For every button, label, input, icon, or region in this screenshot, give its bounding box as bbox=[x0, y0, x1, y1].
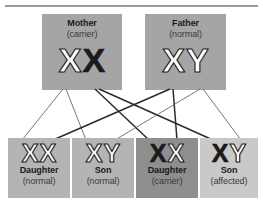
mother-chromosomes: X X bbox=[59, 44, 105, 76]
daughter-normal-chromosome-2: X bbox=[40, 142, 57, 166]
mother-chromosome-2: X bbox=[83, 44, 106, 76]
son-affected-chromosome-2: Y bbox=[230, 142, 247, 166]
mother-title: Mother bbox=[67, 18, 96, 29]
son-affected-chromosome-1: X bbox=[212, 142, 229, 166]
father-chromosome-2: Y bbox=[186, 44, 209, 76]
daughter-carrier-labels: Daughter (carrier) bbox=[148, 165, 187, 187]
mother-subtitle: (carrier) bbox=[67, 29, 98, 40]
child-box-daughter-carrier: X X Daughter (carrier) bbox=[136, 138, 198, 198]
daughter-normal-chromosome-1: X bbox=[22, 142, 39, 166]
son-affected-title: Son bbox=[211, 165, 248, 176]
daughter-carrier-chromosome-2: X bbox=[168, 142, 185, 166]
son-normal-labels: Son (normal) bbox=[87, 165, 120, 187]
daughter-carrier-chromosomes: X X bbox=[150, 142, 184, 166]
son-affected-labels: Son (affected) bbox=[211, 165, 248, 187]
child-box-son-normal: X Y Son (normal) bbox=[72, 138, 134, 198]
father-title: Father bbox=[172, 18, 199, 29]
daughter-normal-subtitle: (normal) bbox=[20, 176, 59, 187]
pedigree-diagram: Mother (carrier) X X Father (normal) X Y… bbox=[0, 0, 263, 208]
son-normal-chromosome-2: Y bbox=[104, 142, 121, 166]
daughter-carrier-title: Daughter bbox=[148, 165, 187, 176]
daughter-carrier-subtitle: (carrier) bbox=[148, 176, 187, 187]
son-normal-title: Son bbox=[87, 165, 120, 176]
son-affected-subtitle: (affected) bbox=[211, 176, 248, 187]
parent-box-father: Father (normal) X Y bbox=[145, 14, 226, 90]
daughter-normal-title: Daughter bbox=[20, 165, 59, 176]
parent-box-mother: Mother (carrier) X X bbox=[42, 14, 122, 90]
son-affected-chromosomes: X Y bbox=[212, 142, 246, 166]
son-normal-chromosome-1: X bbox=[86, 142, 103, 166]
father-chromosome-1: X bbox=[162, 44, 185, 76]
top-divider-rule bbox=[5, 5, 258, 7]
child-box-daughter-normal: X X Daughter (normal) bbox=[8, 138, 70, 198]
daughter-normal-labels: Daughter (normal) bbox=[20, 165, 59, 187]
father-chromosomes: X Y bbox=[162, 44, 208, 76]
mother-chromosome-1: X bbox=[59, 44, 82, 76]
son-normal-chromosomes: X Y bbox=[86, 142, 120, 166]
daughter-carrier-chromosome-1: X bbox=[150, 142, 167, 166]
daughter-normal-chromosomes: X X bbox=[22, 142, 56, 166]
child-box-son-affected: X Y Son (affected) bbox=[200, 138, 258, 198]
father-subtitle: (normal) bbox=[169, 29, 202, 40]
son-normal-subtitle: (normal) bbox=[87, 176, 120, 187]
